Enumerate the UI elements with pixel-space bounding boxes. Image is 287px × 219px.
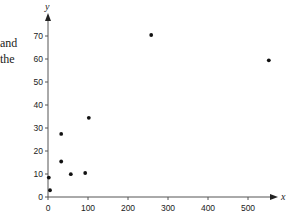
x-tick-label: 200 [121, 203, 135, 213]
x-tick-label: 300 [161, 203, 175, 213]
y-tick-label: 20 [34, 146, 44, 156]
data-point [83, 171, 87, 175]
x-tick-label: 0 [46, 203, 51, 213]
data-point [87, 116, 91, 120]
data-point [48, 188, 52, 192]
x-tick-label: 400 [201, 203, 215, 213]
data-point [59, 160, 63, 164]
data-point [149, 33, 153, 37]
data-point [267, 58, 271, 62]
x-tick-label: 500 [241, 203, 255, 213]
x-axis-arrow-icon [270, 194, 278, 200]
data-point [69, 172, 73, 176]
y-tick-label: 30 [34, 123, 44, 133]
data-point [47, 176, 51, 180]
y-tick-label: 50 [34, 77, 44, 87]
y-tick-label: 70 [34, 31, 44, 41]
x-tick-label: 100 [81, 203, 95, 213]
y-axis-arrow-icon [45, 13, 51, 21]
y-tick-label: 0 [38, 192, 43, 202]
y-tick-label: 40 [34, 100, 44, 110]
y-tick-label: 60 [34, 54, 44, 64]
data-point [59, 132, 63, 136]
scatter-chart: xy0100200300400500010203040506070 [0, 0, 287, 219]
y-tick-label: 10 [34, 169, 44, 179]
x-axis-label: x [280, 191, 286, 202]
y-axis-label: y [44, 1, 50, 12]
